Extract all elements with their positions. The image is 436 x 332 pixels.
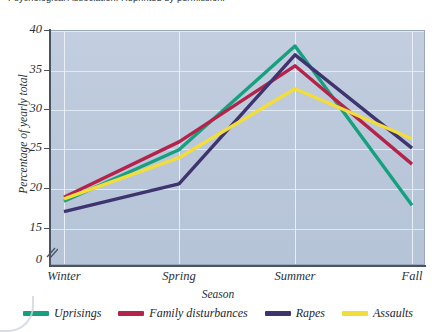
x-axis-line [49,265,426,267]
legend-swatch-icon [265,311,291,316]
x-tick-label-winter: Winter [47,269,80,284]
legend-label: Uprisings [54,306,101,321]
x-tick-label-fall: Fall [402,269,423,284]
axis-break-icon [46,246,58,260]
legend-swatch-icon [118,311,144,316]
plot-area [50,30,425,265]
y-tick-25 [44,148,49,149]
x-axis-title: Season [0,288,436,300]
y-tick-40 [44,30,49,31]
legend-item-rapes[interactable]: Rapes [265,306,325,321]
y-tick-30 [44,109,49,110]
y-tick-35 [44,70,49,71]
legend-item-assaults[interactable]: Assaults [342,306,413,321]
y-axis-origin-label: 0 [0,252,42,267]
x-tick-label-summer: Summer [275,269,316,284]
page-curl-decoration [0,296,34,332]
legend-swatch-icon [342,311,368,316]
y-tick-15 [44,228,49,229]
legend-label: Family disturbances [149,306,247,321]
y-axis-line [49,29,51,266]
caption-line-1: Psychological Association. Reprinted by … [8,0,432,4]
chart-legend: UprisingsFamily disturbancesRapesAssault… [0,306,436,321]
y-axis-title: Percentage of yearly total [17,39,29,229]
legend-item-uprisings[interactable]: Uprisings [23,306,101,321]
figure-caption: Psychological Association. Reprinted by … [8,0,432,15]
y-tick-20 [44,188,49,189]
y-tick-label-40: 40 [0,22,42,37]
legend-label: Assaults [373,306,413,321]
legend-item-family-disturbances[interactable]: Family disturbances [118,306,247,321]
x-tick-label-spring: Spring [162,269,195,284]
legend-label: Rapes [296,306,325,321]
series-lines [51,31,425,265]
